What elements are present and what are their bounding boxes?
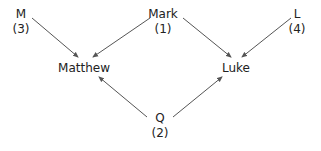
- edge-q-to-matthew: [99, 77, 147, 117]
- node-mark: Mark (1): [148, 7, 178, 37]
- node-q: Q (2): [152, 111, 169, 141]
- node-luke-label: Luke: [222, 61, 250, 76]
- node-l-label: L: [289, 7, 306, 22]
- edge-mark-to-matthew: [93, 18, 150, 57]
- node-m-number: (3): [13, 22, 30, 37]
- node-luke: Luke: [222, 61, 250, 76]
- edge-m-to-matthew: [32, 18, 78, 57]
- node-mark-label: Mark: [148, 7, 178, 22]
- edge-mark-to-luke: [183, 18, 231, 57]
- edge-q-to-luke: [173, 77, 222, 117]
- node-matthew-label: Matthew: [58, 61, 110, 76]
- node-q-number: (2): [152, 126, 169, 141]
- node-mark-number: (1): [148, 22, 178, 37]
- node-m: M (3): [13, 7, 30, 37]
- node-q-label: Q: [152, 111, 169, 126]
- edge-l-to-luke: [242, 18, 291, 57]
- node-l: L (4): [289, 7, 306, 37]
- node-l-number: (4): [289, 22, 306, 37]
- node-m-label: M: [13, 7, 30, 22]
- node-matthew: Matthew: [58, 61, 110, 76]
